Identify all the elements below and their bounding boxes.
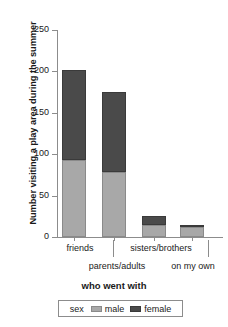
bar-segment-male	[180, 227, 204, 237]
legend-swatch-male-icon	[91, 306, 102, 312]
x-label-parents-adults: parents/adults	[73, 261, 161, 271]
x-label-on-my-own: on my own	[160, 261, 226, 271]
legend: sex male female	[58, 300, 183, 317]
y-axis-line	[57, 30, 58, 237]
y-tick-label-150: 150	[34, 107, 49, 117]
x-tick-2	[154, 237, 155, 241]
x-label-friends: friends	[40, 243, 120, 253]
bar-segment-male	[62, 160, 86, 237]
bar-parents-adults	[102, 92, 126, 237]
y-tick-100: 100	[52, 154, 57, 155]
legend-swatch-female-icon	[130, 306, 141, 312]
legend-label-male: male	[105, 304, 125, 314]
y-tick-label-200: 200	[34, 65, 49, 75]
x-label-separator-right	[208, 240, 209, 257]
x-label-separator-left	[113, 240, 114, 257]
legend-entry-male: male	[91, 304, 125, 314]
y-tick-0: 0	[52, 237, 57, 238]
bar-segment-male	[142, 225, 166, 237]
bar-segment-female	[142, 216, 166, 226]
bar-segment-male	[102, 172, 126, 237]
x-axis-title: who went with	[0, 280, 228, 291]
x-tick-3	[192, 237, 193, 241]
y-tick-label-100: 100	[34, 148, 49, 158]
bar-chart: Number visiting a play area during the s…	[0, 0, 228, 327]
y-tick-label-50: 50	[39, 190, 49, 200]
bar-sisters-brothers	[142, 215, 166, 237]
x-label-sisters-brothers: sisters/brothers	[113, 243, 209, 253]
y-tick-label-250: 250	[34, 24, 49, 34]
bar-segment-female	[62, 70, 86, 160]
legend-entry-female: female	[130, 304, 171, 314]
x-tick-1	[114, 237, 115, 241]
y-tick-200: 200	[52, 71, 57, 72]
x-axis-line	[52, 237, 223, 238]
x-tick-0	[74, 237, 75, 241]
bar-segment-female	[180, 225, 204, 227]
bar-segment-female	[102, 92, 126, 171]
y-axis-title: Number visiting a play area during the s…	[28, 11, 38, 236]
legend-label-female: female	[144, 304, 171, 314]
legend-title: sex	[70, 304, 84, 314]
y-tick-label-0: 0	[44, 231, 49, 241]
y-tick-150: 150	[52, 113, 57, 114]
plot-area: 050100150200250	[57, 22, 223, 237]
bar-friends	[62, 70, 86, 237]
y-tick-50: 50	[52, 196, 57, 197]
y-tick-250: 250	[52, 30, 57, 31]
bar-on-my-own	[180, 225, 204, 237]
